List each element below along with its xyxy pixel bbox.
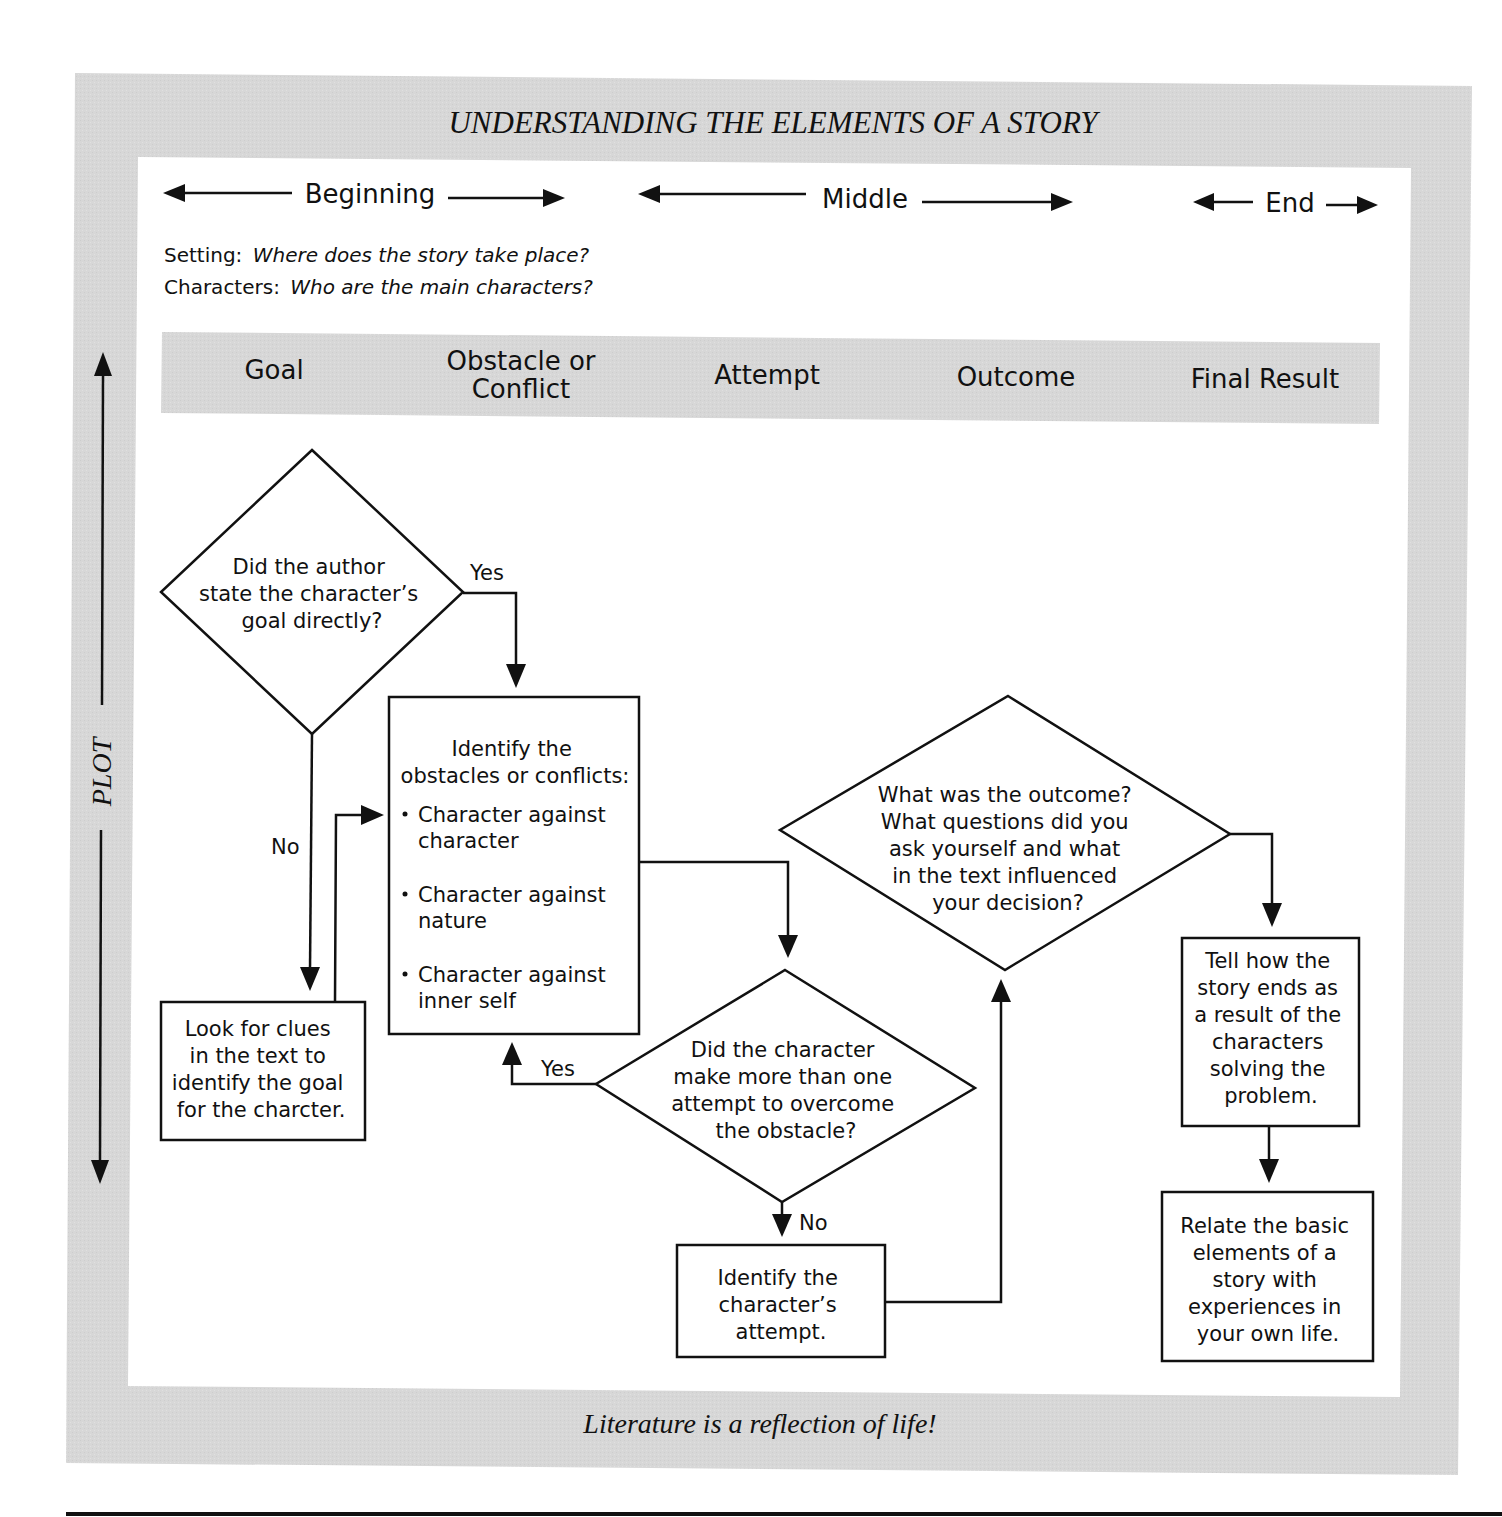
setting-line: Setting: Where does the story take place… bbox=[164, 243, 590, 267]
attempt-yes-label: Yes bbox=[540, 1057, 575, 1081]
characters-label: Characters: bbox=[164, 275, 280, 299]
attempt-box-line3: attempt. bbox=[736, 1320, 827, 1344]
setting-question: Where does the story take place? bbox=[253, 243, 590, 267]
goal-decision-line1: Did the author bbox=[232, 555, 385, 579]
clues-line3: identify the goal bbox=[172, 1071, 344, 1095]
identify-attempt-box: Identify the character’s attempt. bbox=[677, 1245, 885, 1357]
ending-line1: Tell how the bbox=[1204, 949, 1330, 973]
stage-attempt: Attempt bbox=[714, 360, 820, 390]
goal-no-label: No bbox=[271, 835, 300, 859]
ending-line3: a result of the bbox=[1194, 1003, 1341, 1027]
goal-decision-line2: state the character’s bbox=[199, 582, 418, 606]
svg-text:Identify the character’s: Identify the character’s attempt. bbox=[717, 1266, 844, 1344]
attempt-box-line2: character’s bbox=[719, 1293, 837, 1317]
relate-line4: experiences in bbox=[1188, 1295, 1341, 1319]
relate-line5: your own life. bbox=[1197, 1322, 1340, 1346]
stage-obstacle-line2: Conflict bbox=[472, 374, 571, 404]
middle-label: Middle bbox=[822, 184, 908, 214]
attempt-no-label: No bbox=[799, 1211, 828, 1235]
stage-final-result: Final Result bbox=[1191, 364, 1340, 394]
attempt-decision-line2: make more than one bbox=[673, 1065, 892, 1089]
clues-line4: for the charcter. bbox=[177, 1098, 346, 1122]
page-title: UNDERSTANDING THE ELEMENTS OF A STORY bbox=[448, 105, 1100, 140]
setting-label: Setting: bbox=[164, 243, 242, 267]
story-elements-diagram: UNDERSTANDING THE ELEMENTS OF A STORY Be… bbox=[0, 0, 1502, 1517]
footer-tagline: Literature is a reflection of life! bbox=[582, 1408, 936, 1439]
ending-line5: solving the bbox=[1210, 1057, 1326, 1081]
goal-yes-label: Yes bbox=[469, 561, 504, 585]
ending-line2: story ends as bbox=[1197, 976, 1338, 1000]
clues-line2: in the text to bbox=[190, 1044, 326, 1068]
attempt-decision-line4: the obstacle? bbox=[716, 1119, 857, 1143]
outcome-line1: What was the outcome? bbox=[878, 783, 1132, 807]
identify-obstacles-box: Identify the obstacles or conflicts: Cha… bbox=[389, 697, 639, 1034]
beginning-label: Beginning bbox=[305, 179, 436, 209]
look-for-clues-box: Look for clues in the text to identify t… bbox=[161, 1002, 365, 1140]
outcome-line5: your decision? bbox=[932, 891, 1084, 915]
outcome-line3: ask yourself and what bbox=[889, 837, 1120, 861]
stage-obstacle-line1: Obstacle or bbox=[446, 346, 595, 376]
characters-question: Who are the main characters? bbox=[290, 275, 593, 299]
attempt-decision-line1: Did the character bbox=[691, 1038, 875, 1062]
characters-line: Characters: Who are the main characters? bbox=[164, 275, 593, 299]
outcome-line2: What questions did you bbox=[881, 810, 1129, 834]
obstacles-heading-line1: Identify the bbox=[451, 737, 571, 761]
tell-ending-box: Tell how the story ends as a result of t… bbox=[1182, 938, 1359, 1126]
attempt-box-line1: Identify the bbox=[717, 1266, 837, 1290]
attempt-decision-line3: attempt to overcome bbox=[671, 1092, 894, 1116]
plot-label: PLOT bbox=[86, 735, 117, 807]
end-label: End bbox=[1265, 188, 1314, 218]
stage-goal: Goal bbox=[244, 355, 303, 385]
relate-line2: elements of a bbox=[1193, 1241, 1337, 1265]
goal-decision-line3: goal directly? bbox=[241, 609, 382, 633]
stage-outcome: Outcome bbox=[957, 362, 1076, 392]
obstacles-heading-line2: obstacles or conflicts: bbox=[401, 764, 630, 788]
ending-line6: problem. bbox=[1224, 1084, 1318, 1108]
relate-line1: Relate the basic bbox=[1180, 1214, 1349, 1238]
clues-line1: Look for clues bbox=[185, 1017, 331, 1041]
relate-elements-box: Relate the basic elements of a story wit… bbox=[1162, 1192, 1373, 1361]
outcome-line4: in the text influenced bbox=[892, 864, 1117, 888]
ending-line4: characters bbox=[1212, 1030, 1324, 1054]
relate-line3: story with bbox=[1212, 1268, 1316, 1292]
